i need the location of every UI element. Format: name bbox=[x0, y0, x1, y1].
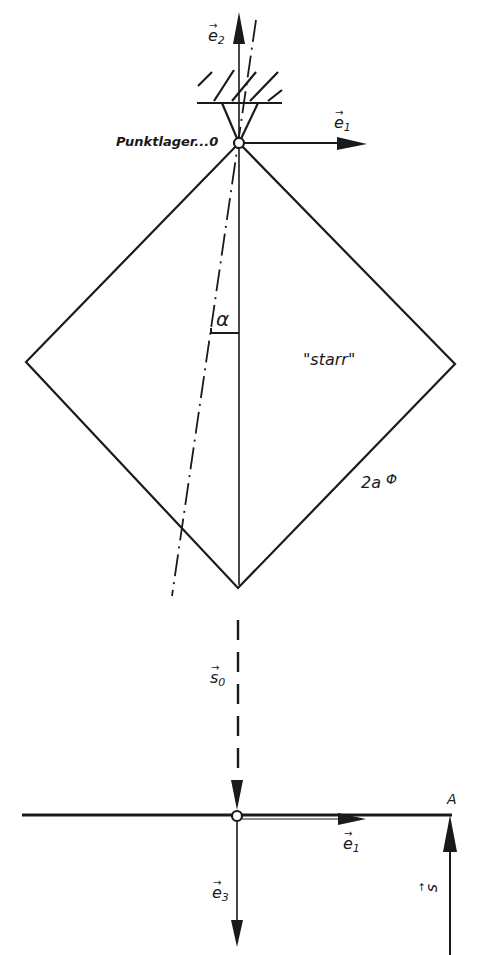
label-angle-alpha: α bbox=[216, 309, 229, 329]
e2-axis-arrow bbox=[233, 12, 245, 143]
label-e1-top: →e1 bbox=[334, 115, 351, 133]
pendulum-diagram bbox=[0, 0, 482, 955]
label-side-length: 2a Φ bbox=[361, 472, 397, 491]
label-pivot-punktlager: Punktlager...0 bbox=[116, 135, 218, 148]
label-point-a: A bbox=[447, 792, 457, 806]
phi-symbol: Φ bbox=[386, 471, 397, 487]
rigid-square-body bbox=[26, 143, 455, 588]
s0-dashed-vector bbox=[231, 620, 243, 810]
label-rigid-starr: "starr" bbox=[303, 352, 355, 368]
s-vector-at-a bbox=[443, 815, 457, 955]
origin-point-bottom bbox=[232, 811, 242, 821]
pivot-point-o bbox=[234, 138, 244, 148]
e3-axis-arrow bbox=[231, 820, 243, 947]
tilted-dashdot-axis bbox=[172, 20, 256, 596]
label-e1-bottom: →e1 bbox=[343, 836, 360, 854]
label-e2-top: →e2 bbox=[208, 28, 225, 46]
label-s0: →s0 bbox=[210, 670, 225, 688]
label-s: →s bbox=[424, 884, 440, 892]
label-e3: →e3 bbox=[212, 885, 229, 903]
e1-axis-arrow-top bbox=[243, 137, 367, 150]
